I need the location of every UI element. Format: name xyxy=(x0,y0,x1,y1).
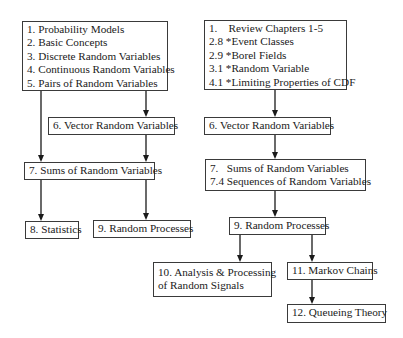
box-right-random-processes: 9. Random Processes xyxy=(229,217,326,235)
box-line: 11. Markov Chains xyxy=(292,264,368,277)
box-left-sums-of-random-variables: 7. Sums of Random Variables xyxy=(24,162,155,180)
box-line: 8. Statistics xyxy=(30,223,74,236)
box-line: 5. Pairs of Random Variables xyxy=(27,77,163,90)
box-line: 12. Queueing Theory xyxy=(292,306,381,319)
box-statistics: 8. Statistics xyxy=(25,221,79,239)
arrowhead-icon xyxy=(237,255,243,262)
arrowhead-icon xyxy=(38,214,44,221)
arrowhead-icon xyxy=(143,155,149,162)
arrowhead-icon xyxy=(272,210,278,217)
arrowhead-icon xyxy=(309,297,315,304)
arrowhead-icon xyxy=(272,110,278,117)
arrowhead-icon xyxy=(143,213,149,220)
arrowhead-icon xyxy=(143,110,149,117)
box-line: 7.4 Sequences of Random Variables xyxy=(210,175,361,188)
arrowhead-icon xyxy=(309,255,315,262)
box-right-sums-and-sequences: 7. Sums of Random Variables 7.4 Sequence… xyxy=(205,159,366,191)
box-line: 9. Random Processes xyxy=(98,222,186,235)
box-markov-chains: 11. Markov Chains xyxy=(287,262,373,280)
arrowhead-icon xyxy=(38,155,44,162)
box-left-random-processes: 9. Random Processes xyxy=(93,220,191,238)
box-line: 2.9 *Borel Fields xyxy=(209,49,342,62)
box-line: 4. Continuous Random Variables xyxy=(27,63,163,76)
box-analysis-processing-signals: 10. Analysis & Processing of Random Sign… xyxy=(153,262,272,297)
box-line: 6. Vector Random Variables xyxy=(53,119,170,132)
box-line: 1. Review Chapters 1-5 xyxy=(209,22,342,35)
box-left-vector-random-variables: 6. Vector Random Variables xyxy=(48,117,175,135)
box-line: 3. Discrete Random Variables xyxy=(27,50,163,63)
box-line: 2.8 *Event Classes xyxy=(209,35,342,48)
box-line: 9. Random Processes xyxy=(234,219,321,232)
box-line: 7. Sums of Random Variables xyxy=(210,162,361,175)
box-right-vector-random-variables: 6. Vector Random Variables xyxy=(204,117,331,135)
box-line: 2. Basic Concepts xyxy=(27,36,163,49)
box-line: of Random Signals xyxy=(158,279,267,292)
box-line: 4.1 *Limiting Properties of CDF xyxy=(209,76,342,89)
box-chapters-1-5: 1. Probability Models 2. Basic Concepts … xyxy=(22,21,168,91)
box-review-chapters: 1. Review Chapters 1-5 2.8 *Event Classe… xyxy=(204,20,347,90)
box-line: 10. Analysis & Processing xyxy=(158,266,267,279)
box-line: 1. Probability Models xyxy=(27,23,163,36)
arrowhead-icon xyxy=(272,152,278,159)
box-line: 7. Sums of Random Variables xyxy=(29,164,150,177)
course-flow-diagram: 1. Probability Models 2. Basic Concepts … xyxy=(0,0,403,338)
box-line: 3.1 *Random Variable xyxy=(209,62,342,75)
box-queueing-theory: 12. Queueing Theory xyxy=(287,304,386,323)
box-line: 6. Vector Random Variables xyxy=(209,119,326,132)
